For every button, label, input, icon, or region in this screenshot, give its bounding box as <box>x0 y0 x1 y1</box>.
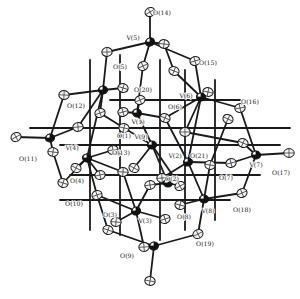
oxygen-atom-ellipsoid <box>144 180 156 190</box>
atom-label-v7: V(7) <box>248 161 262 168</box>
vanadium-atom-ellipsoid <box>98 86 107 94</box>
bond <box>97 195 136 211</box>
atom-label-o3: O(3) <box>103 211 117 218</box>
bond <box>123 172 136 211</box>
atom-label-o4: O(4) <box>70 177 84 184</box>
atom-label-o20: O(20) <box>134 86 152 93</box>
bond <box>188 162 204 199</box>
oxygen-atom-ellipsoid <box>180 128 191 137</box>
atom-label-o16: O(16) <box>241 98 259 105</box>
atom-label-o5: O(5) <box>113 63 127 70</box>
atom-label-o7: O(7) <box>219 174 233 181</box>
molecular-structure-diagram: O(14)V(5)O(5)O(15)O(20)V(6)O(6)O(16)O(12… <box>0 0 300 299</box>
oxygen-atom-ellipsoid <box>59 90 70 99</box>
atom-label-o11: O(11) <box>19 155 37 162</box>
atom-label-v3: V(3) <box>137 217 151 224</box>
atom-label-v9: V(9) <box>133 133 147 140</box>
vanadium-atom-ellipsoid <box>199 195 209 204</box>
oxygen-atom-ellipsoid <box>221 113 234 125</box>
oxygen-atom-ellipsoid <box>235 187 248 199</box>
oxygen-atom-ellipsoid <box>102 47 113 56</box>
bond <box>150 42 195 61</box>
oxygen-atom-ellipsoid <box>47 147 59 157</box>
oxygen-atom-ellipsoid <box>127 162 140 175</box>
oxygen-atom-ellipsoid <box>191 228 204 241</box>
oxygen-atom-ellipsoid <box>9 131 22 144</box>
vanadium-atom-ellipsoid <box>130 206 141 216</box>
oxygen-atom-ellipsoid <box>117 106 129 117</box>
oxygen-atom-ellipsoid <box>144 276 156 286</box>
atom-label-o19: O(19) <box>196 240 214 247</box>
atom-label-o18: O(18) <box>233 206 251 213</box>
atom-label-v5: V(5) <box>125 34 139 41</box>
vanadium-atom-ellipsoid <box>147 141 157 150</box>
atom-label-o13: O(13) <box>112 149 130 156</box>
vanadium-atom-ellipsoid <box>131 108 142 119</box>
oxygen-atom-ellipsoid <box>136 60 149 72</box>
atom-label-o21: O(21) <box>190 152 208 159</box>
oxygen-atom-ellipsoid <box>94 170 106 181</box>
oxygen-atom-ellipsoid <box>118 167 129 177</box>
atom-label-v6: V(6) <box>178 92 192 99</box>
vanadium-atom-ellipsoid <box>144 36 156 47</box>
oxygen-atom-ellipsoid <box>133 94 146 106</box>
oxygen-atom-ellipsoid <box>110 217 121 227</box>
oxygen-atom-ellipsoid <box>102 224 115 236</box>
bond <box>103 52 107 90</box>
bond <box>150 246 154 281</box>
atom-label-o17: O(17) <box>272 169 290 176</box>
bond <box>201 97 240 108</box>
vanadium-atom-ellipsoid <box>251 150 261 159</box>
oxygen-atom-ellipsoid <box>225 157 237 168</box>
oxygen-atom-ellipsoid <box>284 149 294 158</box>
ortep-canvas: O(14)V(5)O(5)O(15)O(20)V(6)O(6)O(16)O(12… <box>0 0 300 299</box>
atom-label-v2: V(2) <box>167 152 181 159</box>
oxygen-atom-ellipsoid <box>204 160 216 170</box>
oxygen-atom-ellipsoid <box>91 189 104 201</box>
bond <box>210 119 228 165</box>
bond <box>50 95 64 138</box>
oxygen-atom-ellipsoid <box>72 122 83 132</box>
atom-label-o1: O(1) <box>117 132 131 139</box>
atom-label-v4: V(4) <box>64 144 78 151</box>
atom-label-v1: V(1) <box>130 118 144 125</box>
oxygen-atom-ellipsoid <box>158 39 169 49</box>
atom-label-o6: O(6) <box>168 103 182 110</box>
atom-label-o8: O(8) <box>177 213 191 220</box>
atom-label-o14: O(14) <box>153 9 171 16</box>
bond <box>107 42 150 52</box>
oxygen-atom-ellipsoid <box>117 82 130 93</box>
bond <box>198 199 204 234</box>
atom-label-o15: O(15) <box>199 59 217 66</box>
bond <box>204 193 242 199</box>
atom-label-o9: O(9) <box>120 252 134 259</box>
atom-label-o10: O(10) <box>65 200 83 207</box>
bond <box>204 165 210 199</box>
atom-label-o2: O(2) <box>165 175 179 182</box>
bond <box>64 90 103 95</box>
vanadium-atom-ellipsoid <box>148 241 160 252</box>
atom-label-o12: O(12) <box>67 102 85 109</box>
atom-label-v8: V(8) <box>200 207 214 214</box>
oxygen-atom-ellipsoid <box>94 107 107 119</box>
oxygen-atom-ellipsoid <box>139 242 150 252</box>
vanadium-atom-ellipsoid <box>45 133 55 142</box>
